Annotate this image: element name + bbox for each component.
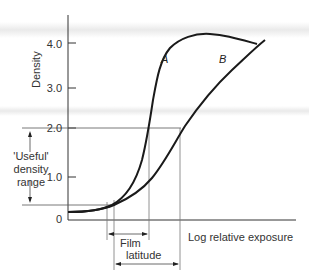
arrowhead-left-icon (108, 232, 114, 236)
arrowhead-left-icon (115, 262, 121, 266)
useful-line-2: density (2, 163, 60, 176)
film-latitude-label-line1: Film (120, 237, 141, 249)
useful-density-range-label: 'Useful' density range (2, 150, 60, 189)
curve-b (68, 40, 265, 212)
arrowhead-right-icon (142, 232, 148, 236)
arrowhead-down-icon (28, 197, 32, 203)
curve-a-label: A (161, 53, 168, 65)
useful-line-1: 'Useful' (2, 150, 60, 163)
arrowhead-right-icon (173, 262, 179, 266)
tick-label-4: 4.0 (32, 38, 62, 50)
x-axis-label: Log relative exposure (188, 231, 293, 243)
tick-label-0: 0 (32, 213, 62, 225)
film-latitude-label-line2: latitude (126, 249, 161, 261)
tick-label-2: 2.0 (32, 122, 62, 134)
tick-label-3: 3.0 (32, 82, 62, 94)
curve-b-label: B (219, 53, 226, 65)
useful-line-3: range (2, 176, 60, 189)
